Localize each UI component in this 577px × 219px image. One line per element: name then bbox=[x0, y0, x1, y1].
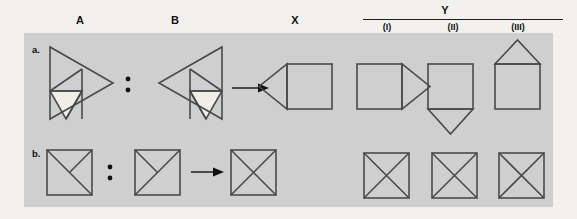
analogy-figure: A B X Y (I) (II) (III) a. b. bbox=[0, 0, 577, 219]
row-b-arrow bbox=[191, 168, 224, 177]
row-a-relation-colon bbox=[126, 77, 131, 93]
row-a-arrow bbox=[232, 84, 269, 93]
row-b-relation-colon bbox=[108, 165, 113, 181]
row-a-figure-A bbox=[50, 47, 113, 119]
row-b-option-i[interactable] bbox=[364, 153, 409, 198]
row-b-figure-X bbox=[231, 150, 276, 195]
row-b-figure-B bbox=[135, 150, 180, 195]
row-b-option-iii[interactable] bbox=[499, 153, 544, 198]
row-b-figure-A bbox=[47, 150, 92, 195]
row-a-figure-B bbox=[159, 47, 222, 119]
row-a-option-ii[interactable] bbox=[428, 64, 473, 134]
shapes-layer bbox=[0, 0, 577, 219]
row-a-figure-X bbox=[259, 64, 332, 109]
row-a-option-i[interactable] bbox=[357, 64, 430, 109]
row-a-option-iii[interactable] bbox=[495, 40, 540, 109]
row-b-option-ii[interactable] bbox=[432, 153, 477, 198]
